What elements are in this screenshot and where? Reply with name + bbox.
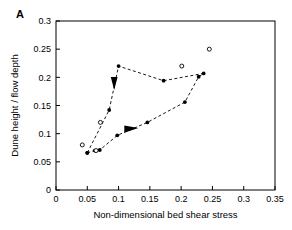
- x-tick-label: 0.15: [141, 194, 159, 204]
- y-tick-label: 0.2: [38, 73, 51, 83]
- x-tick-label: 0.1: [112, 194, 125, 204]
- data-point-filled: [107, 108, 111, 112]
- data-point-filled: [115, 133, 119, 137]
- x-tick-label: 0.3: [237, 194, 250, 204]
- y-tick-label: 0.3: [38, 16, 51, 26]
- y-tick-label: 0.25: [33, 44, 51, 54]
- series-data-markers: [80, 47, 211, 155]
- x-tick-label: 0.25: [204, 194, 222, 204]
- chart-canvas: 00.050.10.150.20.250.30.35 00.050.10.150…: [0, 0, 292, 230]
- data-point-filled: [98, 148, 102, 152]
- hysteresis-loop-path: [87, 66, 203, 153]
- x-tick-label: 0.2: [175, 194, 188, 204]
- series-dashed-path: [87, 66, 203, 153]
- data-point-filled: [202, 71, 206, 75]
- x-axis-ticks: 00.050.10.150.20.250.30.35: [53, 186, 283, 204]
- arrow-descending-left-branch: [111, 77, 118, 90]
- data-point-filled: [197, 75, 201, 79]
- y-tick-label: 0.1: [38, 129, 51, 139]
- data-point-filled: [162, 79, 166, 83]
- data-point-open: [94, 149, 98, 153]
- axes-frame: [56, 21, 275, 190]
- data-point-filled: [183, 100, 187, 104]
- series-direction-arrows: [111, 77, 139, 133]
- y-axis-title: Dune height / flow depth: [9, 54, 20, 156]
- y-tick-label: 0.15: [33, 101, 51, 111]
- figure-panel-a: A 00.050.10.150.20.250.30.35 00.050.10.1…: [0, 0, 292, 230]
- plot-frame: [56, 21, 275, 190]
- arrow-ascending-lower-branch: [124, 126, 138, 133]
- data-point-open: [80, 143, 84, 147]
- data-point-filled: [145, 121, 149, 125]
- y-tick-label: 0.05: [33, 157, 51, 167]
- y-tick-label: 0: [46, 185, 51, 195]
- data-point-filled: [85, 151, 89, 155]
- x-tick-label: 0.35: [266, 194, 284, 204]
- x-axis-title: Non-dimensional bed shear stress: [93, 209, 237, 220]
- data-point-open: [207, 47, 211, 51]
- data-point-filled: [117, 64, 121, 68]
- x-tick-label: 0: [53, 194, 58, 204]
- data-point-open: [98, 120, 102, 124]
- x-tick-label: 0.05: [79, 194, 97, 204]
- data-point-open: [180, 64, 184, 68]
